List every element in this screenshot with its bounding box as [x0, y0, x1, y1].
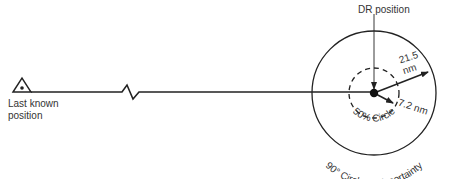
inner-radius-label: 7.2 nm [397, 97, 429, 117]
inner-circle-label: 50% Circle [351, 105, 397, 124]
last-known-label-line1: Last known [8, 98, 59, 109]
diagram-canvas: Last known position DR position 21.5 nm … [0, 0, 455, 179]
outer-radius-arrow [374, 72, 428, 93]
dr-position-icon [370, 89, 378, 97]
outer-circle-label: 90° Circle of Uncertainty [324, 160, 424, 179]
track-line [31, 85, 374, 99]
last-known-position-icon [13, 78, 31, 92]
last-known-label-line2: position [8, 110, 42, 121]
dr-position-label: DR position [358, 4, 410, 15]
